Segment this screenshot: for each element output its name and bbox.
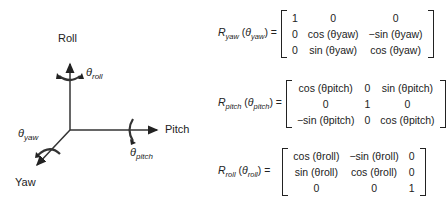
- yaw-label: Yaw: [15, 176, 36, 188]
- theta-roll-label: θroll: [86, 66, 103, 81]
- pitch-equation-lhs: Rpitch (θpitch) =: [218, 96, 282, 111]
- pitch-matrix: cos (θpitch)0sin (θpitch) 010 −sin (θpit…: [286, 80, 446, 128]
- axes-diagram: Roll Pitch Yaw θroll θpitch θyaw: [0, 0, 200, 216]
- yaw-axis: [37, 130, 70, 165]
- pitch-rotation-equation: Rpitch (θpitch) = cos (θpitch)0sin (θpit…: [218, 80, 446, 128]
- roll-rotation-equation: Rroll (θroll) = cos (θroll)−sin (θroll)0…: [218, 148, 426, 196]
- theta-pitch-label: θpitch: [130, 146, 153, 161]
- roll-matrix: cos (θroll)−sin (θroll)0 sin (θroll)cos …: [282, 148, 425, 196]
- roll-equation-lhs: Rroll (θroll) =: [218, 164, 270, 179]
- theta-yaw-label: θyaw: [18, 127, 38, 142]
- yaw-equation-lhs: Ryaw (θyaw) =: [218, 26, 277, 41]
- pitch-label: Pitch: [165, 123, 189, 135]
- yaw-rotation-equation: Ryaw (θyaw) = 100 0cos (θyaw)−sin (θyaw)…: [218, 10, 434, 58]
- yaw-matrix: 100 0cos (θyaw)−sin (θyaw) 0sin (θyaw)co…: [281, 10, 434, 58]
- roll-label: Roll: [58, 32, 77, 44]
